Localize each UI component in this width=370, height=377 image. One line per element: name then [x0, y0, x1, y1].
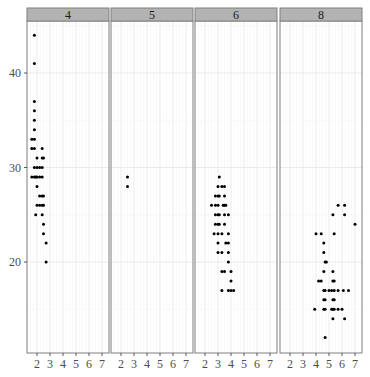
data-point: [322, 251, 325, 254]
data-point: [223, 270, 226, 273]
data-point: [218, 213, 221, 216]
facet-strip-label: 8: [318, 8, 324, 22]
data-point: [36, 185, 39, 188]
data-point: [214, 223, 217, 226]
data-point: [33, 62, 36, 65]
data-point: [42, 232, 45, 235]
data-point: [33, 100, 36, 103]
data-point: [223, 194, 226, 197]
data-point: [331, 270, 334, 273]
data-point: [325, 261, 328, 264]
data-point: [33, 147, 36, 150]
data-point: [227, 213, 230, 216]
data-point: [33, 166, 36, 169]
panel-background: [280, 21, 362, 353]
data-point: [333, 298, 336, 301]
data-point: [30, 147, 33, 150]
data-point: [41, 175, 44, 178]
data-point: [217, 204, 220, 207]
data-point: [210, 204, 213, 207]
data-point: [38, 175, 41, 178]
panel-background: [111, 21, 193, 353]
data-point: [224, 204, 227, 207]
facet-panels: 4568: [27, 8, 362, 354]
x-tick-label: 7: [99, 357, 105, 371]
data-point: [42, 223, 45, 226]
data-point: [320, 279, 323, 282]
x-tick-label: 3: [300, 357, 306, 371]
data-point: [331, 213, 334, 216]
data-point: [34, 213, 37, 216]
data-point: [320, 232, 323, 235]
x-tick-label: 5: [326, 357, 332, 371]
data-point: [38, 204, 41, 207]
data-point: [333, 308, 336, 311]
data-point: [227, 242, 230, 245]
data-point: [330, 289, 333, 292]
data-point: [230, 289, 233, 292]
panel-background: [27, 21, 109, 353]
data-point: [343, 317, 346, 320]
x-tick-label: 7: [267, 357, 273, 371]
data-point: [33, 34, 36, 37]
data-point: [333, 279, 336, 282]
data-point: [331, 317, 334, 320]
x-tick-label: 4: [228, 357, 234, 371]
data-point: [38, 166, 41, 169]
x-tick-label: 6: [86, 357, 92, 371]
x-tick-label: 2: [287, 357, 293, 371]
data-point: [33, 138, 36, 141]
facet-strip-label: 5: [149, 8, 155, 22]
data-point: [324, 336, 327, 339]
data-point: [315, 232, 318, 235]
x-tick-label: 6: [254, 357, 260, 371]
data-point: [218, 175, 221, 178]
data-point: [328, 289, 331, 292]
data-point: [220, 270, 223, 273]
data-point: [227, 261, 230, 264]
data-point: [230, 270, 233, 273]
x-tick-label: 2: [202, 357, 208, 371]
facet-panel-5: 5: [111, 8, 193, 354]
x-tick-label: 6: [170, 357, 176, 371]
data-point: [33, 128, 36, 131]
data-point: [343, 204, 346, 207]
data-point: [217, 185, 220, 188]
facet-panel-8: 8: [280, 8, 362, 354]
x-tick-label: 7: [183, 357, 189, 371]
data-point: [214, 194, 217, 197]
y-axis: 203040: [9, 66, 27, 269]
x-tick-label: 3: [47, 357, 53, 371]
data-point: [224, 242, 227, 245]
data-point: [337, 289, 340, 292]
data-point: [337, 204, 340, 207]
data-point: [341, 308, 344, 311]
x-tick-label: 3: [131, 357, 137, 371]
y-tick-label: 30: [9, 161, 21, 175]
x-tick-label: 4: [60, 357, 66, 371]
x-tick-label: 5: [241, 357, 247, 371]
data-point: [220, 251, 223, 254]
data-point: [45, 261, 48, 264]
data-point: [214, 213, 217, 216]
x-tick-label: 4: [313, 357, 319, 371]
data-point: [30, 138, 33, 141]
data-point: [313, 308, 316, 311]
data-point: [42, 194, 45, 197]
data-point: [324, 308, 327, 311]
x-tick-label: 7: [352, 357, 358, 371]
data-point: [354, 223, 357, 226]
data-point: [36, 175, 39, 178]
facet-panel-6: 6: [195, 8, 277, 354]
data-point: [38, 194, 41, 197]
facet-strip-label: 6: [233, 8, 239, 22]
data-point: [227, 251, 230, 254]
data-point: [36, 204, 39, 207]
data-point: [41, 147, 44, 150]
data-point: [217, 251, 220, 254]
y-tick-label: 20: [9, 255, 21, 269]
data-point: [322, 270, 325, 273]
data-point: [41, 166, 44, 169]
data-point: [33, 109, 36, 112]
facet-strip-label: 4: [65, 8, 71, 22]
